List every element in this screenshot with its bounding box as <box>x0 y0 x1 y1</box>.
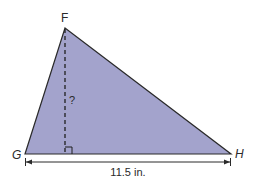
vertex-label-g: G <box>12 148 21 162</box>
altitude-label: ? <box>69 94 75 106</box>
base-dimension-label: 11.5 in. <box>110 166 145 178</box>
dimension-arrow-left-icon <box>26 160 32 165</box>
vertex-label-h: H <box>235 147 244 161</box>
triangle-fgh <box>25 28 231 154</box>
triangle-figure: F G H ? 11.5 in. <box>0 0 254 182</box>
dimension-arrow-right-icon <box>224 160 230 165</box>
triangle-diagram: F G H ? 11.5 in. <box>0 0 254 182</box>
vertex-label-f: F <box>61 11 68 25</box>
